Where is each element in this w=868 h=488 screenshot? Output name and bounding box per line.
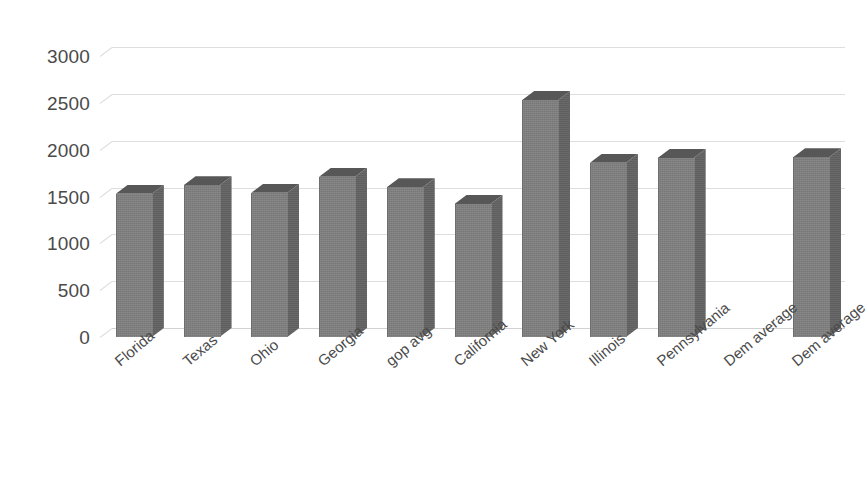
x-axis-tick-label: California — [451, 316, 509, 368]
x-axis-tick-label: Ohio — [247, 337, 281, 369]
x-axis-tick-label: Florida — [112, 328, 157, 369]
x-axis-tick-label: New York — [518, 316, 576, 368]
x-axis-tick-label: Dem average — [721, 299, 800, 368]
x-axis-tick-label: Dem average — [789, 299, 868, 368]
x-axis-tick-label: Georgia — [315, 323, 366, 369]
x-axis-tick-label: Pennsylvania — [654, 300, 732, 369]
x-axis-tick-label: Illinois — [586, 330, 628, 368]
x-axis-tick-label: gop avg — [383, 323, 434, 369]
x-axis-tick-label: Texas — [180, 332, 220, 369]
